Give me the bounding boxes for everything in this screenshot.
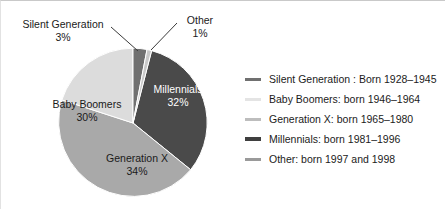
leader-line-silent-generation [111, 27, 138, 51]
pie-plot-area: Millennials 32% Generation X 34% Baby Bo… [1, 1, 246, 209]
legend-item-generation-x[interactable]: Generation X: born 1965–1980 [245, 109, 443, 129]
legend-swatch-other [245, 158, 261, 161]
legend-label-generation-x: Generation X: born 1965–1980 [269, 113, 413, 125]
legend-swatch-baby-boomers [245, 98, 261, 101]
legend-label-millennials: Millennials: born 1981–1996 [269, 133, 400, 145]
pie-graphic [1, 1, 246, 209]
legend-item-baby-boomers[interactable]: Baby Boomers: born 1946–1964 [245, 89, 443, 109]
legend-swatch-generation-x [245, 118, 261, 121]
legend-item-millennials[interactable]: Millennials: born 1981–1996 [245, 129, 443, 149]
chart-legend: Silent Generation : Born 1928–1945 Baby … [245, 69, 443, 169]
legend-label-other: Other: born 1997 and 1998 [269, 153, 395, 165]
legend-item-silent-generation[interactable]: Silent Generation : Born 1928–1945 [245, 69, 443, 89]
legend-swatch-silent-generation [245, 78, 261, 81]
legend-label-silent-generation: Silent Generation : Born 1928–1945 [269, 73, 437, 85]
leader-line-other [151, 23, 177, 50]
pie-chart-figure: Millennials 32% Generation X 34% Baby Bo… [0, 0, 445, 209]
legend-item-other[interactable]: Other: born 1997 and 1998 [245, 149, 443, 169]
legend-label-baby-boomers: Baby Boomers: born 1946–1964 [269, 93, 420, 105]
legend-swatch-millennials [245, 137, 261, 141]
